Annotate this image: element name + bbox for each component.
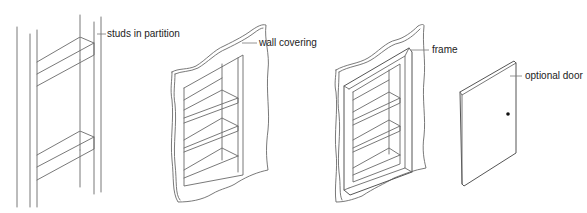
label-studs-in-partition: studs in partition [107,28,180,40]
door-knob [506,112,510,116]
label-optional-door: optional door [525,70,583,82]
frame-drawing [335,25,429,203]
label-wall-covering: wall covering [259,37,317,49]
door-drawing [460,61,522,186]
studs-drawing [17,15,106,207]
diagram-drawing [0,0,587,213]
wall-covering-drawing [171,25,268,202]
niche-construction-diagram: studs in partition wall covering frame o… [0,0,587,213]
label-frame: frame [432,44,458,56]
